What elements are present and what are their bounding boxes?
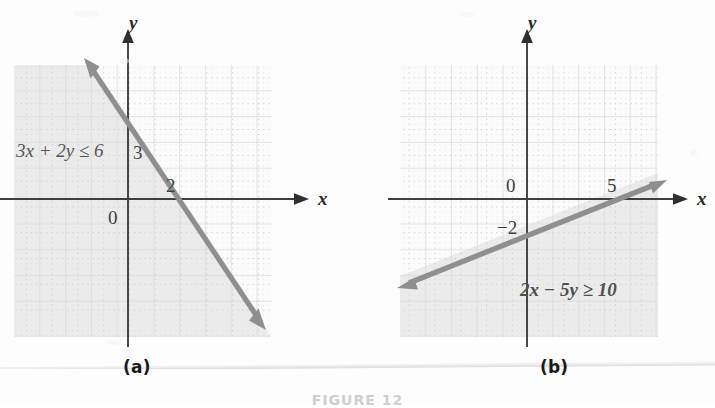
y-axis-label-b: y [526,12,537,33]
inequality-label-b: 2x − 5y ≥ 10 [519,279,617,300]
inequality-label-a: 3x + 2y ≤ 6 [15,140,104,161]
y-intercept-label-a: 3 [133,142,143,163]
panel-caption-b: (b) [540,357,568,377]
x-intercept-label-b: 5 [607,175,617,196]
caption-divider-rule [0,357,715,369]
origin-label-b: 0 [506,175,516,196]
graph-b-svg: 2x − 5y ≥ 10 5 −2 0 y x [357,0,714,360]
panel-caption-a: (a) [123,357,151,377]
x-intercept-label-a: 2 [166,175,176,196]
graph-panel-a: 3x + 2y ≤ 6 3 2 0 y x [0,0,357,360]
x-axis-arrowhead-a [294,193,309,205]
x-axis-label-b: x [696,188,707,209]
x-axis-arrowhead-b [673,193,688,205]
graph-panel-b: 2x − 5y ≥ 10 5 −2 0 y x [357,0,714,360]
y-intercept-label-b: −2 [497,217,517,238]
x-axis-label-a: x [317,188,328,209]
origin-label-a: 0 [108,207,118,228]
grid-dots-a [14,65,272,337]
graph-a-svg: 3x + 2y ≤ 6 3 2 0 y x [0,0,357,360]
figure-number-label: FIGURE 12 [0,392,715,408]
y-axis-label-a: y [127,12,138,33]
